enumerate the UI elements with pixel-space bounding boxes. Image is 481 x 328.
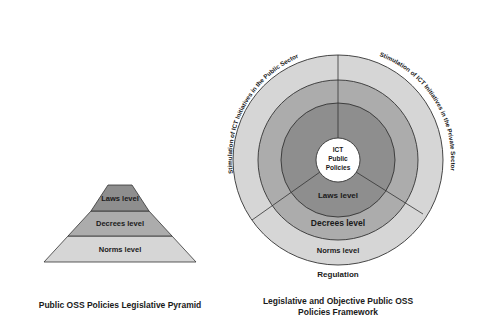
policies-framework-circle: ICT Public Policies Laws level Decrees l… <box>226 50 457 279</box>
center-label-line3: Policies <box>326 164 351 171</box>
center-label-line2: Public <box>328 155 348 162</box>
pyramid-caption: Public OSS Policies Legislative Pyramid <box>20 300 220 311</box>
ring-norms-label: Norms level <box>317 246 360 255</box>
framework-caption-line2: Policies Framework <box>248 307 428 318</box>
center-label-line1: ICT <box>333 146 344 153</box>
pyramid-norms-label: Norms level <box>99 245 142 254</box>
legislative-pyramid: Laws level Decrees level Norms level <box>44 185 196 262</box>
framework-caption-line1: Legislative and Objective Public OSS <box>248 296 428 307</box>
framework-caption: Legislative and Objective Public OSS Pol… <box>248 296 428 318</box>
pyramid-laws-label: Laws level <box>101 194 139 203</box>
pyramid-decrees-label: Decrees level <box>96 219 144 228</box>
ring-laws-label: Laws level <box>318 191 358 200</box>
ring-decrees-label: Decrees level <box>311 218 365 228</box>
diagram-svg: Laws level Decrees level Norms level ICT… <box>0 0 481 328</box>
figure-canvas: Laws level Decrees level Norms level ICT… <box>0 0 481 328</box>
regulation-label: Regulation <box>317 270 358 279</box>
